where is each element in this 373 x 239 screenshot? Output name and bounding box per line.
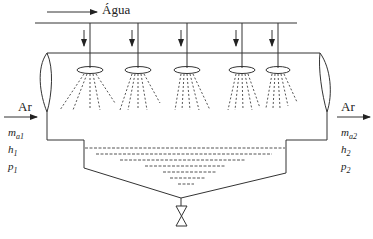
inlet-pressure: p1 bbox=[8, 160, 24, 177]
inlet-duct-end bbox=[40, 53, 51, 112]
outlet-pressure: p2 bbox=[341, 160, 357, 177]
outlet-mass-flow: ma2 bbox=[341, 126, 357, 143]
spray-fans bbox=[60, 74, 297, 110]
inlet-enthalpy: h1 bbox=[8, 143, 24, 160]
water-label: Água bbox=[102, 3, 130, 16]
sump-water-levels bbox=[85, 148, 285, 184]
air-inlet-label: Ar bbox=[18, 100, 32, 113]
air-outlet-label: Ar bbox=[341, 100, 355, 113]
diagram-canvas bbox=[0, 0, 373, 239]
outlet-enthalpy: h2 bbox=[341, 143, 357, 160]
feed-pipes bbox=[90, 23, 278, 68]
outlet-variables: ma2 h2 p2 bbox=[341, 126, 357, 178]
inlet-variables: ma1 h1 p1 bbox=[8, 126, 24, 178]
spray-nozzles bbox=[77, 67, 290, 74]
chamber-body bbox=[47, 112, 327, 198]
outlet-duct-end bbox=[319, 53, 330, 112]
water-down-arrows bbox=[84, 30, 272, 46]
drain-valve-icon[interactable] bbox=[176, 206, 187, 226]
inlet-mass-flow: ma1 bbox=[8, 126, 24, 143]
